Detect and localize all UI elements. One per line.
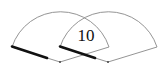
sector-right: [60, 12, 157, 63]
overlap-label: 10: [78, 26, 95, 45]
sector-left-center-point: [59, 61, 61, 63]
sector-right-arc: [60, 12, 157, 47]
sector-left-thick-edge: [12, 47, 47, 59]
sector-right-center-point: [107, 61, 109, 63]
overlapping-sectors-diagram: 10: [0, 0, 167, 70]
sector-right-right-radius: [108, 47, 157, 62]
